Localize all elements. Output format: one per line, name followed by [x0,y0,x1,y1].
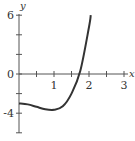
x-axis-label: x [129,68,135,79]
x-axis [19,71,128,77]
x-tick-label: 2 [86,79,93,92]
y-tick-label: 6 [7,9,14,22]
x-tick-labels: 123 [51,79,128,92]
chart: y x 60-4 123 [0,0,135,141]
y-axis-label: y [19,0,26,11]
y-tick-label: -4 [3,107,14,120]
y-tick-label: 0 [7,68,14,81]
x-tick-label: 3 [121,79,128,92]
y-tick-labels: 60-4 [3,9,14,120]
x-tick-label: 1 [51,79,58,92]
data-curve [19,15,91,110]
